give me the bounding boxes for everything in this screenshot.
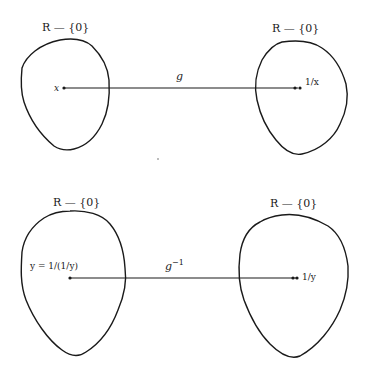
bottom-target-point [295,276,298,279]
bottom-domain-set-blob [21,211,125,356]
bottom-map-label-superscript: −1 [172,258,184,267]
bottom-map-label-base: g [165,260,172,273]
top-arrowhead-dot [293,86,296,89]
top-source-point-label: x [54,83,59,93]
bottom-source-point-label: y = 1/(1/y) [29,261,78,271]
function-inverse-diagram: R — {0} R — {0} x 1/x g R — {0} R — {0} … [0,0,371,372]
bottom-domain-label: R — {0} [53,196,100,209]
top-domain-set-blob [21,39,109,150]
print-speck [157,158,159,160]
bottom-codomain-set-blob [239,215,348,358]
bottom-codomain-label: R — {0} [270,197,317,210]
bottom-map-label: g−1 [165,258,184,273]
bottom-target-point-label: 1/y [302,272,317,282]
top-codomain-set-blob [256,41,348,154]
top-map-label: g [176,70,183,83]
top-target-point [298,86,301,89]
top-target-point-label: 1/x [305,77,319,87]
top-codomain-label: R — {0} [272,22,319,35]
top-domain-label: R — {0} [42,21,89,34]
top-source-point [62,86,65,89]
top-mapping-panel: R — {0} R — {0} x 1/x g [21,21,347,154]
bottom-arrowhead-dot [291,276,294,279]
bottom-mapping-panel: R — {0} R — {0} y = 1/(1/y) 1/y g−1 [21,196,348,357]
bottom-source-point [68,276,71,279]
